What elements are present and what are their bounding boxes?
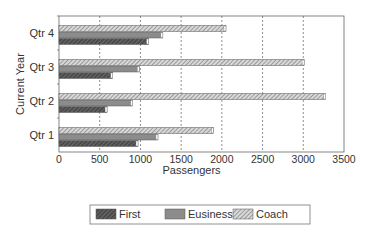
legend-label: First [119,208,140,220]
bar-end-cap [137,67,139,72]
bar-end-cap [324,94,326,99]
bar-end-cap [147,39,149,44]
x-tick-label: 3000 [292,153,316,165]
bar-eusiness-qtr3 [59,66,139,72]
bar-end-cap [156,135,158,140]
bar-eusiness-qtr2 [59,100,133,106]
plot-area [59,16,344,152]
bar-end-cap [136,141,138,146]
legend: FirstEusinessCoach [90,205,310,224]
legend-swatch-eusiness [165,209,185,219]
x-tick-label: 3500 [332,153,356,165]
y-axis-label: Current Year [14,53,26,115]
bar-end-cap [111,73,113,78]
bar-eusiness-qtr1 [59,134,158,140]
bar-end-cap [211,128,213,133]
bar-first-qtr1 [59,141,138,147]
y-tick-label: Qtr 4 [30,27,54,39]
legend-swatch-coach [233,209,253,219]
legend-label: Eusiness [188,208,233,220]
x-axis-label: Passengers [162,164,221,176]
bar-end-cap [302,60,304,65]
y-tick-label: Qtr 2 [30,95,54,107]
bar-chart: Qtr 1Qtr 2Qtr 3Qtr 405001000150020002500… [0,0,369,242]
x-tick-label: 1000 [129,153,153,165]
x-tick-label: 2500 [251,153,275,165]
bar-coach-qtr2 [59,94,326,100]
bar-eusiness-qtr4 [59,32,163,38]
bar-end-cap [161,33,163,38]
bar-coach-qtr4 [59,26,226,32]
legend-label: Coach [256,208,288,220]
x-tick-label: 500 [91,153,109,165]
legend-swatch-first [96,209,116,219]
bar-end-cap [131,101,133,106]
y-tick-label: Qtr 3 [30,61,54,73]
bar-end-cap [224,26,226,31]
bar-coach-qtr3 [59,60,304,66]
x-tick-label: 0 [56,153,62,165]
bar-first-qtr3 [59,73,113,79]
bar-first-qtr4 [59,39,149,45]
bar-coach-qtr1 [59,128,213,134]
y-tick-label: Qtr 1 [30,129,54,141]
bar-first-qtr2 [59,107,107,113]
bar-end-cap [105,107,107,112]
